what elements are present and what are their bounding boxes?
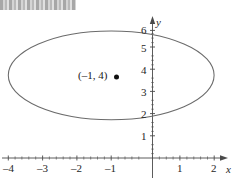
- y-tick-label-5: 5: [141, 43, 147, 54]
- x-axis-group: [2, 155, 228, 161]
- y-tick-label-6: 6: [141, 25, 147, 36]
- y-tick-label-1: 1: [141, 131, 147, 142]
- ellipse-curve: [8, 31, 214, 120]
- ellipse-figure: –4 –3 –2 –1 1 2 x 1 2 3 4 5 6 y (–1, 4): [0, 0, 240, 180]
- x-tick-label-1: 1: [177, 163, 183, 174]
- y-axis-arrowhead: [150, 16, 155, 24]
- x-axis-arrowhead: [220, 155, 228, 161]
- y-tick-label-4: 4: [141, 65, 147, 76]
- x-tick-label-neg4: –4: [3, 163, 14, 174]
- center-point-label: (–1, 4): [78, 70, 107, 81]
- x-tick-label-neg1: –1: [105, 163, 116, 174]
- x-axis-label: x: [226, 164, 231, 175]
- y-tick-label-2: 2: [141, 109, 147, 120]
- coordinate-plane: [0, 0, 240, 180]
- x-tick-label-2: 2: [211, 163, 217, 174]
- x-tick-label-neg2: –2: [71, 163, 82, 174]
- x-tick-label-neg3: –3: [37, 163, 48, 174]
- y-axis-label: y: [156, 17, 161, 28]
- center-point-marker: [114, 75, 119, 80]
- y-tick-label-3: 3: [141, 87, 147, 98]
- y-axis-group: [150, 16, 155, 178]
